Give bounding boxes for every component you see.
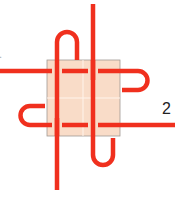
- end-label-2: 2: [162, 100, 171, 118]
- knot-diagram: [0, 0, 179, 197]
- end-label-1: 1: [0, 44, 2, 62]
